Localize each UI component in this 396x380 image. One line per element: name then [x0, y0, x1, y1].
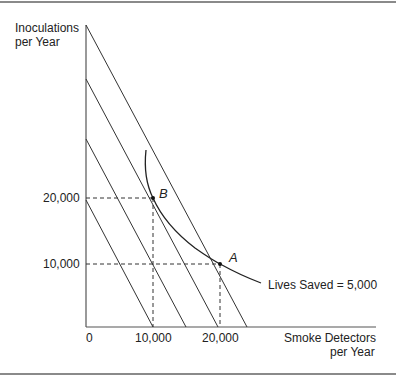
point-a-label: A [229, 251, 238, 265]
isoquant-diagram [0, 0, 396, 380]
y-tick-20000: 20,000 [43, 191, 80, 205]
point-b-label: B [159, 187, 168, 201]
x-axis-label-line2: per Year [330, 345, 375, 359]
point-b-marker [151, 196, 155, 200]
y-axis-label-line1: Inoculations [15, 21, 79, 35]
x-axis-label-line1: Smoke Detectors [284, 331, 376, 345]
isoquant-label: Lives Saved = 5,000 [268, 278, 377, 292]
y-axis-label-line2: per Year [15, 35, 60, 49]
budget-line-4 [86, 25, 247, 327]
budget-line-2 [86, 139, 186, 327]
point-a-marker [218, 262, 222, 266]
isoquant-curve [145, 150, 261, 283]
budget-line-3 [86, 79, 218, 327]
x-tick-10000: 10,000 [135, 331, 172, 345]
x-tick-0: 0 [86, 331, 93, 345]
y-tick-10000: 10,000 [43, 257, 80, 271]
x-tick-20000: 20,000 [202, 331, 239, 345]
